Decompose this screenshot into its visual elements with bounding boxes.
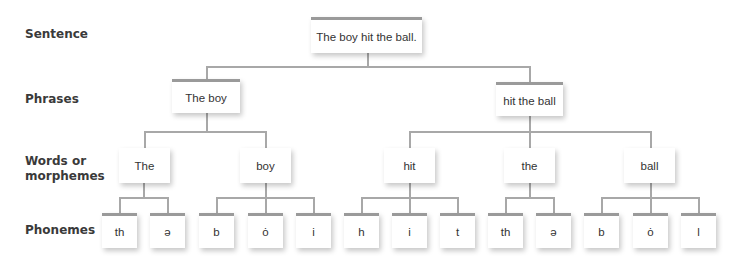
connector — [206, 112, 208, 131]
connector — [457, 197, 459, 213]
word-node: hit — [384, 148, 435, 183]
connector — [601, 197, 603, 213]
phoneme-node: b — [584, 213, 619, 248]
phoneme-node: ə — [150, 213, 185, 248]
connector — [216, 197, 218, 213]
connector — [650, 131, 652, 148]
connector — [119, 197, 168, 199]
word-node: ball — [624, 148, 675, 183]
connector — [265, 131, 267, 148]
connector — [553, 197, 555, 213]
level-label-phonemes: Phonemes — [25, 223, 95, 238]
level-label-words: Words or morphemes — [25, 154, 105, 184]
phoneme-node: h — [344, 213, 379, 248]
phrase-node: The boy — [172, 79, 240, 113]
phoneme-node: i — [296, 213, 331, 248]
connector — [216, 197, 314, 199]
connector — [119, 197, 121, 213]
word-node: the — [504, 148, 555, 183]
connector — [144, 131, 146, 148]
connector — [367, 52, 369, 66]
connector — [361, 197, 458, 199]
connector — [505, 197, 507, 213]
connector — [529, 183, 531, 197]
connector — [529, 131, 531, 148]
phoneme-node: l — [681, 213, 716, 248]
word-node: The — [119, 148, 170, 183]
phoneme-node: th — [102, 213, 137, 248]
connector — [409, 131, 411, 148]
connector — [206, 66, 208, 79]
connector — [529, 115, 531, 131]
word-node: boy — [240, 148, 291, 183]
connector — [529, 66, 531, 82]
level-label-phrases: Phrases — [25, 92, 79, 107]
level-label-words-line2: morphemes — [25, 169, 105, 184]
connector — [143, 183, 145, 197]
phrase-node: hit the ball — [496, 82, 563, 116]
connector — [505, 197, 554, 199]
level-label-words-line1: Words or — [25, 154, 105, 169]
connector — [361, 197, 363, 213]
phoneme-node: i — [392, 213, 427, 248]
phoneme-node: ȯ — [248, 213, 283, 248]
phoneme-node: t — [440, 213, 475, 248]
connector — [144, 131, 266, 133]
phoneme-node: ȯ — [633, 213, 668, 248]
connector — [167, 197, 169, 213]
sentence-node: The boy hit the ball. — [311, 17, 422, 53]
phoneme-node: th — [488, 213, 523, 248]
connector — [698, 197, 700, 213]
phoneme-node: ə — [536, 213, 571, 248]
connector — [313, 197, 315, 213]
phoneme-node: b — [199, 213, 234, 248]
connector — [601, 197, 699, 199]
level-label-sentence: Sentence — [25, 27, 88, 42]
connector — [206, 66, 530, 68]
